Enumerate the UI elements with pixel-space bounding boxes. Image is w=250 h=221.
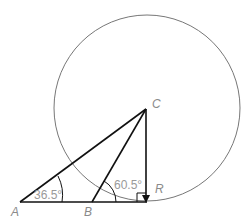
point-label-B: B — [84, 205, 92, 219]
point-label-R: R — [155, 182, 164, 196]
angle-label-B: 60.5° — [114, 178, 142, 192]
angle-label-A: 36.5° — [34, 188, 62, 202]
point-label-C: C — [152, 97, 161, 111]
point-label-A: A — [10, 205, 19, 219]
circle — [54, 15, 240, 201]
geometry-diagram: A B C R 36.5° 60.5° — [0, 0, 250, 221]
